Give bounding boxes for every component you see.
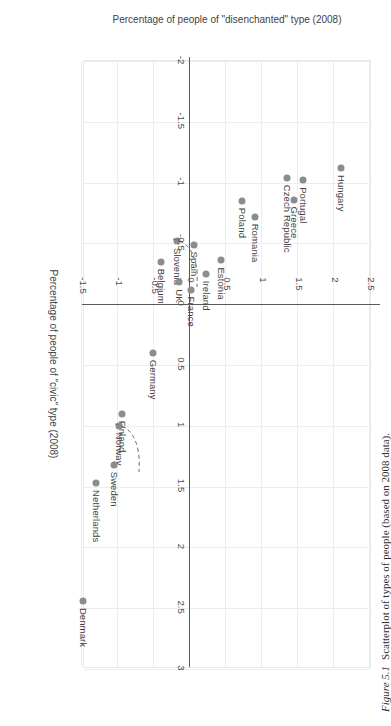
scatter-point: [251, 213, 258, 220]
x-tick-label: 2.5: [176, 600, 187, 614]
y-tick-label: -1: [114, 277, 125, 286]
scatter-point: [202, 270, 209, 277]
point-label: Hungary: [336, 175, 347, 212]
point-label: Czech Republic: [282, 185, 293, 253]
plot-area: HungaryPortugalGreeceCzech RepublicRoman…: [83, 60, 371, 668]
caption-label: Figure 5.1: [379, 666, 391, 712]
y-axis-title: Percentage of people of "disenchanted" t…: [83, 14, 371, 25]
scatter-point: [111, 461, 118, 468]
x-tick-label: -1: [176, 177, 187, 186]
scatter-point: [93, 479, 100, 486]
x-tick-label: 3: [176, 665, 187, 670]
point-label: Germany: [147, 360, 158, 400]
x-tick-label: -2: [176, 56, 187, 65]
y-tick-label: -0.5: [150, 277, 161, 294]
label-leader-line: [111, 420, 145, 478]
scatter-point: [118, 410, 125, 417]
gridline-vertical: [84, 243, 370, 244]
point-label: France: [186, 297, 197, 327]
x-tick-label: 0: [176, 300, 187, 305]
gridline-vertical: [84, 547, 370, 548]
gridline-vertical: [84, 183, 370, 184]
y-tick-label: 1.5: [294, 277, 305, 291]
y-tick-label: 2: [330, 277, 341, 282]
y-tick-label: 0: [186, 277, 197, 282]
scatter-point: [300, 177, 307, 184]
y-tick-label: 1: [258, 277, 269, 282]
gridline-horizontal: [117, 61, 118, 667]
x-tick-label: -0.5: [176, 234, 187, 251]
point-label: Denmark: [78, 608, 89, 647]
scatter-point: [80, 597, 87, 604]
x-tick-label: -1.5: [176, 112, 187, 129]
gridline-vertical: [84, 365, 370, 366]
x-tick-label: 2: [176, 544, 187, 549]
gridline-vertical: [84, 122, 370, 123]
caption-text: Scatterplot of types of people (based on…: [379, 433, 391, 660]
scatter-point: [338, 165, 345, 172]
y-tick-label: -1.5: [78, 277, 89, 294]
x-tick-label: 1.5: [176, 479, 187, 493]
axis-line-horizontal: [189, 57, 190, 667]
axis-line-vertical: [82, 304, 380, 305]
scatter-point: [176, 279, 183, 286]
scatter-point: [217, 257, 224, 264]
scatter-point: [158, 258, 165, 265]
figure-caption: Figure 5.1Scatterplot of types of people…: [357, 0, 387, 726]
x-tick-label: 0.5: [176, 357, 187, 371]
gridline-vertical: [84, 608, 370, 609]
x-tick-label: 1: [176, 422, 187, 427]
gridline-horizontal: [297, 61, 298, 667]
scatter-point: [238, 197, 245, 204]
point-label: Romania: [249, 224, 260, 263]
point-label: Netherlands: [91, 490, 102, 542]
scatter-point: [149, 349, 156, 356]
scatter-point: [284, 174, 291, 181]
x-axis-title: Percentage of people of "civic" type (20…: [48, 60, 59, 668]
gridline-horizontal: [261, 61, 262, 667]
point-label: Sweden: [109, 472, 120, 507]
point-label: Poland: [236, 208, 247, 238]
gridline-horizontal: [225, 61, 226, 667]
gridline-vertical: [84, 61, 370, 62]
gridline-horizontal: [333, 61, 334, 667]
y-tick-label: 0.5: [222, 277, 233, 291]
gridline-vertical: [84, 669, 370, 670]
gridline-horizontal: [81, 61, 82, 667]
gridline-vertical: [84, 487, 370, 488]
